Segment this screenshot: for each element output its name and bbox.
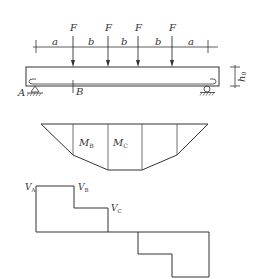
- force-arrow: F: [69, 22, 78, 67]
- pin-support-icon: [27, 86, 43, 96]
- shear-negative-outline: [138, 232, 209, 277]
- shear-label-a: VA: [25, 182, 37, 193]
- span-label-b3: b: [155, 36, 161, 47]
- shear-label-b: VB: [78, 182, 89, 193]
- span-label-a-right: a: [188, 36, 194, 47]
- shear-positive-outline: [36, 186, 108, 232]
- force-label: F: [134, 22, 143, 33]
- moment-label-c: MC: [112, 137, 128, 149]
- beam-diagram-figure: a b b b a F F F F: [0, 0, 256, 279]
- beam-loading-diagram: a b b b a F F F F: [17, 22, 247, 98]
- force-label: F: [168, 22, 177, 33]
- height-label: h0: [236, 72, 247, 82]
- span-label-a-left: a: [52, 36, 58, 47]
- force-arrow: F: [134, 22, 143, 67]
- beam-body: [26, 67, 219, 86]
- force-label: F: [104, 22, 113, 33]
- span-label-b2: b: [121, 36, 127, 47]
- moment-diagram: MB MC: [41, 124, 208, 170]
- force-label: F: [69, 22, 78, 33]
- height-dimension: h0: [230, 65, 247, 88]
- shear-diagram: VA VB VC: [25, 182, 209, 277]
- span-label-b1: b: [88, 36, 94, 47]
- shear-label-c: VC: [111, 203, 122, 214]
- support-a-label: A: [17, 87, 25, 98]
- roller-support-icon: [200, 86, 215, 96]
- force-arrow: F: [168, 22, 177, 67]
- rebar: [29, 79, 216, 84]
- moment-label-b: MB: [78, 137, 94, 149]
- force-arrow: F: [104, 22, 113, 67]
- section-b-label: B: [75, 86, 83, 97]
